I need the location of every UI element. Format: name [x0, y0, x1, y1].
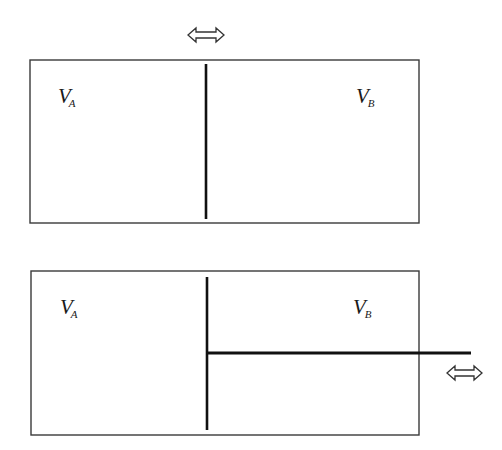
top-panel: VA VB	[30, 28, 419, 223]
label-vb-bottom: VB	[353, 295, 372, 320]
double-arrow-icon	[447, 366, 482, 380]
bottom-panel: VA VB	[31, 271, 482, 435]
label-vb-top: VB	[356, 84, 375, 109]
label-va-top: VA	[58, 84, 76, 109]
diagram-canvas: VA VB VA VB	[0, 0, 502, 450]
double-arrow-icon	[188, 28, 224, 42]
label-va-bottom: VA	[60, 295, 78, 320]
